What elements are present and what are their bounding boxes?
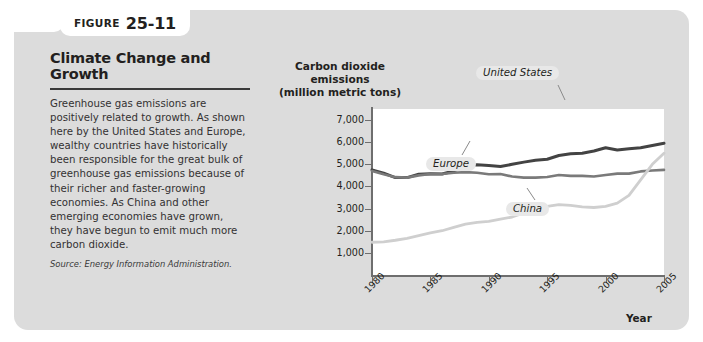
series-label-china: China	[506, 202, 549, 216]
caption-column: Climate Change and Growth Greenhouse gas…	[50, 50, 250, 269]
figure-panel: Figure 25-11 Climate Change and Growth G…	[14, 10, 689, 330]
x-axis-title: Year	[626, 312, 652, 324]
series-label-europe: Europe	[426, 157, 476, 171]
series-label-united-states: United States	[476, 66, 559, 80]
title-divider	[50, 88, 250, 90]
series-line-china	[372, 153, 664, 242]
figure-label: Figure	[74, 17, 120, 29]
figure-description: Greenhouse gas emissions are positively …	[50, 97, 246, 252]
figure-number: 25-11	[126, 14, 176, 33]
figure-source: Source: Energy Information Administratio…	[50, 259, 250, 269]
figure-tab-notch	[14, 10, 64, 32]
leader-line-china	[527, 188, 535, 200]
leader-line-united-states	[558, 85, 565, 100]
series-lines	[266, 38, 684, 326]
figure-number-tab: Figure 25-11	[60, 10, 190, 36]
figure-title: Climate Change and Growth	[50, 50, 250, 82]
chart: Carbon dioxide emissions (million metric…	[266, 38, 684, 326]
leader-line-europe	[462, 141, 470, 155]
